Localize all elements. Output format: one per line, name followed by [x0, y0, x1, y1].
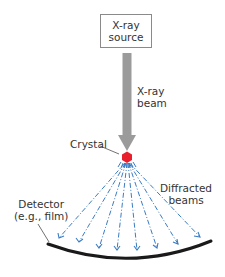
beam-label: X-ray beam: [137, 85, 167, 109]
beam-label-line1: X-ray: [137, 85, 167, 97]
crystal-icon: [122, 152, 132, 164]
diffracted-label-line1: Diffracted: [160, 182, 212, 194]
crystal-label: Crystal: [70, 138, 107, 150]
diagram-canvas: X-ray source X-ray beam Crystal Diffract…: [0, 0, 225, 277]
detector-label-line2: (e.g., film): [14, 210, 68, 222]
diffracted-rays: [59, 163, 200, 250]
xray-source-box: X-ray source: [100, 14, 152, 48]
source-label-line2: source: [109, 31, 144, 43]
diffracted-label-line2: beams: [160, 194, 212, 206]
detector-film-arc: [48, 241, 211, 258]
diffracted-beams-label: Diffracted beams: [160, 182, 212, 206]
detector-label-line1: Detector: [14, 198, 68, 210]
detector-leader-line: [38, 224, 49, 242]
xray-beam-arrow: [118, 53, 136, 151]
source-label-line1: X-ray: [112, 19, 139, 31]
beam-label-line2: beam: [137, 97, 167, 109]
detector-label: Detector (e.g., film): [14, 198, 68, 222]
